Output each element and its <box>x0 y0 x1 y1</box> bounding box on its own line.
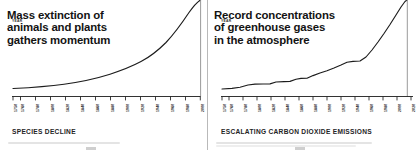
panel-species-decline: Mass extinction of animals and plants ga… <box>0 0 208 150</box>
tick-label: 2020 <box>413 104 416 112</box>
tick-label: 1860 <box>97 104 101 112</box>
carbon-emissions-curve <box>222 0 407 89</box>
tick-label: 1840 <box>287 104 291 112</box>
tick-label: 1980 <box>187 104 191 112</box>
tick-label: 1860 <box>301 104 305 112</box>
chart-caption: SPECIES DECLINE <box>12 128 76 135</box>
tick-label: 2000 <box>399 104 403 112</box>
tick-label: 1980 <box>385 104 389 112</box>
species-decline-chart <box>0 0 208 108</box>
tick-label: 1920 <box>343 104 347 112</box>
ghost-mark <box>86 147 96 150</box>
tick-label: 1800 <box>259 104 263 112</box>
panel-carbon-emissions: Record concentrations of greenhouse gase… <box>208 0 416 150</box>
x-axis-title: YEAR <box>12 19 22 23</box>
tick-label: 1960 <box>172 104 176 112</box>
x-axis-labels: 1750 1760 1780 1800 1820 1840 1860 1880 … <box>208 99 416 121</box>
x-axis-title: YEAR <box>221 19 231 23</box>
bottom-clipped-strip <box>0 142 416 150</box>
ghost-line <box>216 145 356 147</box>
tick-label: 1760 <box>22 104 26 112</box>
tick-label: 1800 <box>52 104 56 112</box>
panel-divider <box>207 0 208 150</box>
tick-label: 1900 <box>329 104 333 112</box>
species-decline-curve <box>13 0 201 89</box>
tick-label: 1760 <box>231 104 235 112</box>
chart-caption: ESCALATING CARBON DIOXIDE EMISSIONS <box>221 128 372 135</box>
tick-label: 1900 <box>127 104 131 112</box>
ghost-line <box>8 142 120 144</box>
tick-label: 2000 <box>202 104 206 112</box>
tick-label: 1780 <box>245 104 249 112</box>
tick-label: 1780 <box>37 104 41 112</box>
tick-label: 1920 <box>142 104 146 112</box>
tick-label: 1940 <box>357 104 361 112</box>
ghost-line <box>216 142 372 144</box>
ghost-mark <box>295 147 305 150</box>
x-axis-labels: 1750 1760 1780 1800 1820 1840 1860 1880 … <box>0 99 208 121</box>
tick-label: 1880 <box>112 104 116 112</box>
carbon-emissions-chart <box>208 0 416 108</box>
tick-label: 1960 <box>371 104 375 112</box>
tick-label: 1880 <box>315 104 319 112</box>
tick-label: 1750 <box>224 104 228 112</box>
tick-label: 1750 <box>15 104 19 112</box>
tick-label: 1820 <box>273 104 277 112</box>
infographic-board: Mass extinction of animals and plants ga… <box>0 0 416 150</box>
tick-label: 1820 <box>67 104 71 112</box>
tick-label: 1840 <box>82 104 86 112</box>
tick-label: 1940 <box>157 104 161 112</box>
